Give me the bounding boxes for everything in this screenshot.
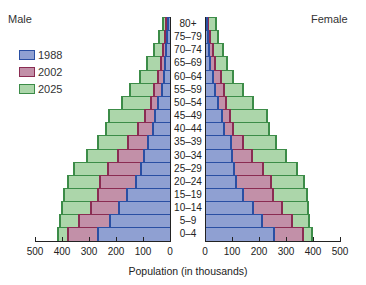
legend-swatch-2025: [19, 84, 35, 94]
x-axis-title: Population (in thousands): [108, 265, 268, 277]
tick-label-left: 400: [47, 246, 77, 257]
tick-mark: [259, 237, 260, 241]
tick-label-left: 100: [128, 246, 158, 257]
bar-male-1988: [135, 175, 170, 189]
bar-female-1988: [206, 122, 225, 136]
age-label: 35–39: [170, 135, 206, 148]
age-label: 55–59: [170, 83, 206, 96]
tick-label-right: 400: [298, 246, 328, 257]
bar-male-1988: [147, 135, 170, 149]
male-label: Male: [8, 13, 32, 25]
x-axis-left: [35, 241, 171, 242]
bar-male-1988: [97, 227, 170, 241]
age-label: 0–4: [170, 227, 206, 240]
tick-label-right: 0: [190, 246, 220, 257]
bar-female-1988: [206, 30, 209, 44]
tick-label-right: 500: [325, 246, 355, 257]
bar-female-1988: [206, 201, 254, 215]
tick-mark: [205, 237, 206, 241]
bar-male-1988: [140, 162, 170, 176]
bar-female-1988: [206, 135, 232, 149]
tick-label-left: 200: [101, 246, 131, 257]
age-label: 15–19: [170, 188, 206, 201]
age-label: 65–69: [170, 56, 206, 69]
tick-label-left: 0: [155, 246, 185, 257]
bar-female-1988: [206, 83, 216, 97]
tick-label-right: 100: [217, 246, 247, 257]
legend-label-1988: 1988: [38, 49, 62, 61]
tick-mark: [313, 237, 314, 241]
age-label: 25–29: [170, 162, 206, 175]
bar-male-1988: [126, 188, 170, 202]
bar-female-1988: [206, 175, 237, 189]
tick-label-left: 300: [74, 246, 104, 257]
tick-label-left: 500: [20, 246, 50, 257]
legend-label-2025: 2025: [38, 83, 62, 95]
tick-label-right: 300: [271, 246, 301, 257]
y-axis-left: [170, 17, 171, 242]
tick-mark: [340, 237, 341, 241]
tick-mark: [170, 237, 171, 241]
bar-female-1988: [206, 188, 244, 202]
age-label: 20–24: [170, 175, 206, 188]
bar-male-1988: [152, 122, 170, 136]
legend-label-2002: 2002: [38, 66, 62, 78]
bar-male-1988: [143, 149, 170, 163]
age-label: 75–79: [170, 30, 206, 43]
age-label: 70–74: [170, 43, 206, 56]
bar-male-1988: [118, 201, 170, 215]
bar-female-1988: [206, 162, 235, 176]
bar-female-1988: [206, 56, 211, 70]
age-label: 10–14: [170, 201, 206, 214]
female-label: Female: [311, 13, 348, 25]
bar-female-1988: [206, 17, 208, 31]
bar-female-1988: [206, 43, 210, 57]
bar-male-1988: [154, 109, 170, 123]
tick-mark: [35, 237, 36, 241]
age-label: 45–49: [170, 109, 206, 122]
age-label: 60–64: [170, 70, 206, 83]
bar-female-1988: [206, 149, 233, 163]
x-axis-right: [205, 241, 341, 242]
age-label: 5–9: [170, 214, 206, 227]
bar-male-1988: [161, 83, 170, 97]
bar-female-1988: [206, 227, 275, 241]
tick-mark: [89, 237, 90, 241]
tick-mark: [286, 237, 287, 241]
age-label: 50–54: [170, 96, 206, 109]
age-label: 40–44: [170, 122, 206, 135]
tick-mark: [232, 237, 233, 241]
bar-male-1988: [163, 70, 170, 84]
tick-mark: [116, 237, 117, 241]
age-label: 30–34: [170, 149, 206, 162]
legend-swatch-1988: [19, 50, 35, 60]
bar-female-1988: [206, 109, 223, 123]
bar-female-1988: [206, 214, 263, 228]
bar-female-1988: [206, 70, 214, 84]
age-label: 80+: [170, 17, 206, 30]
y-axis-right: [205, 17, 206, 242]
bar-male-1988: [157, 96, 170, 110]
tick-mark: [143, 237, 144, 241]
bar-female-1988: [206, 96, 219, 110]
bar-male-1988: [109, 214, 170, 228]
tick-label-right: 200: [244, 246, 274, 257]
legend-swatch-2002: [19, 67, 35, 77]
tick-mark: [62, 237, 63, 241]
